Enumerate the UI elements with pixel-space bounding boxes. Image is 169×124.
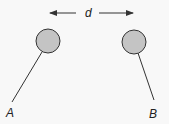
- sphere-a-assembly: A: [5, 29, 60, 120]
- distance-label: d: [85, 6, 92, 20]
- insulating-rod-b: [138, 53, 154, 100]
- sphere-a: [36, 29, 60, 53]
- two-sphere-diagram: d A B: [0, 0, 169, 124]
- distance-arrow: d: [50, 6, 133, 20]
- sphere-b: [122, 30, 146, 54]
- label-a: A: [5, 106, 14, 120]
- label-b: B: [149, 107, 157, 121]
- insulating-rod-a: [12, 52, 42, 102]
- sphere-b-assembly: B: [122, 30, 157, 121]
